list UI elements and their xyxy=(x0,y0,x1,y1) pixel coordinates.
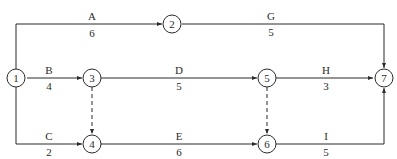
activity-d-duration: 5 xyxy=(176,80,182,92)
activity-i-name: I xyxy=(324,130,328,142)
network-diagram: A 6 G 5 B 4 D 5 H 3 C 2 E 6 I 5 xyxy=(0,0,397,159)
node-3: 3 xyxy=(83,69,101,87)
node-label: 4 xyxy=(89,138,95,150)
activity-e-duration: 6 xyxy=(176,146,182,158)
activity-d: D 5 xyxy=(101,64,257,92)
activity-c-duration: 2 xyxy=(46,146,52,158)
activity-h-duration: 3 xyxy=(323,80,329,92)
activity-g-name: G xyxy=(267,10,275,22)
activity-g: G 5 xyxy=(182,10,384,68)
activity-c: C 2 xyxy=(16,87,82,158)
activity-b: B 4 xyxy=(27,64,82,92)
activity-d-name: D xyxy=(175,64,183,76)
node-label: 5 xyxy=(264,72,270,84)
node-label: 1 xyxy=(13,72,19,84)
node-6: 6 xyxy=(258,135,276,153)
activity-a-duration: 6 xyxy=(89,27,95,39)
activity-b-duration: 4 xyxy=(46,80,52,92)
activity-a: A 6 xyxy=(16,10,162,69)
node-2: 2 xyxy=(163,15,181,33)
activity-e: E 6 xyxy=(101,130,257,158)
node-1: 1 xyxy=(7,69,25,87)
activity-i-duration: 5 xyxy=(323,146,329,158)
node-label: 7 xyxy=(381,72,387,84)
activity-g-duration: 5 xyxy=(268,26,274,38)
node-label: 6 xyxy=(264,138,270,150)
node-4: 4 xyxy=(83,135,101,153)
node-7: 7 xyxy=(375,69,393,87)
activity-e-name: E xyxy=(176,130,183,142)
activity-a-name: A xyxy=(88,10,96,22)
arrow-i xyxy=(276,88,384,144)
activity-h-name: H xyxy=(322,64,330,76)
node-label: 2 xyxy=(169,18,175,30)
node-5: 5 xyxy=(258,69,276,87)
activity-i: I 5 xyxy=(276,88,384,158)
activity-b-name: B xyxy=(45,64,52,76)
node-label: 3 xyxy=(89,72,95,84)
arrow-g xyxy=(182,24,384,68)
activity-h: H 3 xyxy=(276,64,373,92)
activity-c-name: C xyxy=(45,130,52,142)
